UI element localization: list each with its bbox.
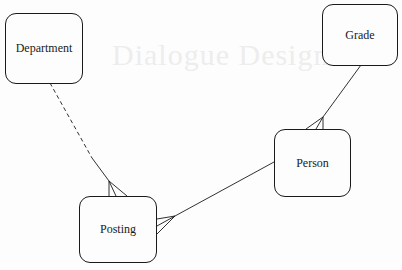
dashed-line-segment: [50, 83, 92, 158]
solid-line-segment: [323, 65, 361, 117]
entity-person[interactable]: Person: [274, 129, 351, 197]
entity-label: Person: [296, 156, 329, 171]
crows-foot-icon: [306, 117, 323, 129]
entity-label: Grade: [345, 28, 374, 43]
entity-label: Department: [16, 41, 73, 56]
entity-posting[interactable]: Posting: [79, 196, 157, 263]
entity-grade[interactable]: Grade: [322, 4, 398, 66]
entity-department[interactable]: Department: [5, 13, 83, 84]
solid-line-segment: [175, 162, 274, 216]
solid-line-segment: [92, 158, 109, 181]
crows-foot-icon: [109, 181, 127, 196]
edge-person-posting: [157, 162, 274, 234]
edge-department-posting: [50, 83, 127, 196]
edge-grade-person: [306, 65, 361, 129]
crows-foot-icon: [157, 216, 175, 234]
entity-label: Posting: [100, 222, 136, 237]
